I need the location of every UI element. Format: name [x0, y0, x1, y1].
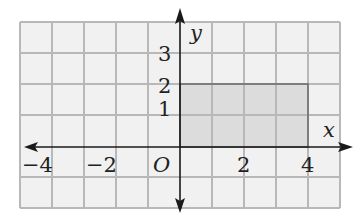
x-tick-label-neg4: −4 [22, 153, 53, 177]
x-tick-label-neg2: −2 [86, 153, 117, 177]
y-tick-label-3: 3 [158, 42, 171, 66]
y-tick-label-1: 1 [158, 97, 171, 121]
x-tick-label-2: 2 [237, 153, 250, 177]
origin-label: O [153, 153, 170, 177]
coordinate-plane: x y O −4 −2 2 4 1 2 3 [0, 0, 360, 220]
x-axis-label: x [323, 118, 335, 142]
y-tick-label-2: 2 [158, 74, 171, 98]
x-tick-label-4: 4 [301, 153, 314, 177]
y-axis-label: y [189, 21, 203, 45]
